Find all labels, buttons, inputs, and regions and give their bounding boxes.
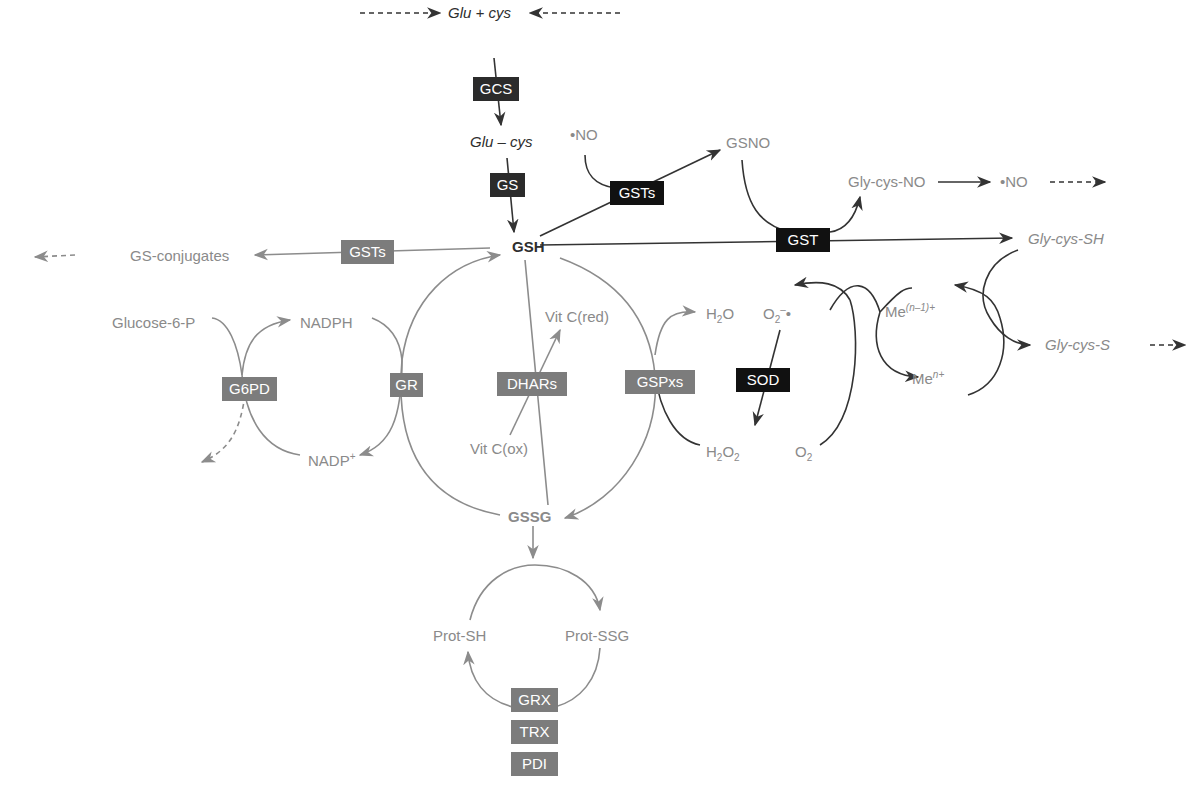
metabolite-glu-minus-cys: Glu – cys [470, 133, 533, 151]
metabolite-prot-sh: Prot-SH [433, 627, 486, 645]
metabolite-gly-cys-sh: Gly-cys-SH [1028, 230, 1104, 248]
metabolite-superoxide: O2–• [763, 305, 791, 323]
enzyme-gcs: GCS [473, 77, 519, 101]
metabolite-vit-c-ox: Vit C(ox) [470, 440, 528, 458]
enzyme-gr: GR [390, 373, 423, 397]
metabolite-h2o: H2O [706, 305, 734, 323]
metabolite-me-n: Men+ [912, 370, 944, 388]
metabolite-gsh: GSH [512, 238, 545, 256]
enzyme-g6pd: G6PD [222, 377, 277, 401]
metabolite-gs-conjugates: GS-conjugates [130, 247, 229, 265]
enzyme-gs: GS [490, 173, 525, 197]
metabolite-no-radical-right: •NO [1000, 173, 1028, 191]
metabolite-gly-cys-no: Gly-cys-NO [848, 173, 926, 191]
enzyme-gsts-top: GSTs [610, 181, 664, 205]
metabolite-me-n-minus-1: Me(n–1)+ [885, 303, 935, 321]
enzyme-pdi: PDI [511, 752, 558, 776]
metabolite-prot-ssg: Prot-SSG [565, 627, 629, 645]
metabolite-o2: O2 [795, 443, 812, 461]
metabolite-gsno: GSNO [726, 134, 770, 152]
synthesis-arrows [360, 13, 620, 232]
enzyme-gst: GST [776, 228, 830, 252]
metabolite-nadph: NADPH [300, 314, 353, 332]
enzyme-dhars: DHARs [497, 372, 567, 396]
metabolite-gssg: GSSG [508, 508, 551, 526]
metabolite-vit-c-red: Vit C(red) [545, 308, 609, 326]
enzyme-gspxs: GSPxs [625, 370, 695, 394]
metabolite-no-radical-left: •NO [570, 126, 598, 144]
metabolite-glucose-6-p: Glucose-6-P [112, 314, 195, 332]
enzyme-trx: TRX [511, 720, 558, 744]
enzyme-grx: GRX [511, 688, 558, 712]
metabolite-glu-cys: Glu + cys [448, 4, 511, 22]
metabolite-gly-cys-s: Gly-cys-S [1045, 336, 1110, 354]
metabolite-nadp-plus: NADP+ [308, 452, 356, 470]
metabolite-h2o2: H2O2 [706, 443, 740, 461]
enzyme-sod: SOD [736, 368, 790, 392]
enzyme-gsts-left: GSTs [341, 240, 394, 264]
pathway-arrows [0, 0, 1198, 798]
